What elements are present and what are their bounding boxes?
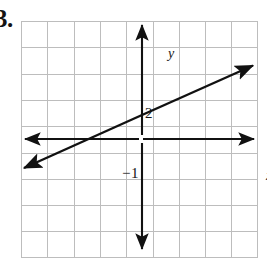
y-axis-label: y: [168, 47, 174, 61]
value-label-negative-1: −1: [122, 166, 139, 181]
problem-number-label: 3.: [0, 6, 13, 31]
value-label-2: 2: [145, 106, 153, 121]
plotted-line: [21, 21, 258, 258]
line-segment-left: [24, 115, 142, 168]
graph-screenshot: 3.: [0, 0, 267, 259]
coordinate-graph: y x 2 −1: [21, 21, 258, 258]
x-axis-label: x: [266, 169, 267, 183]
line-segment-right: [142, 66, 253, 116]
